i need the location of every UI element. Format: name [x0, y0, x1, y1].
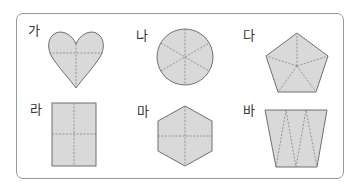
heart-shape — [49, 32, 104, 88]
figures-canvas: .shape { fill:#d9d9d9; stroke:#6f6f6f; s… — [0, 0, 353, 194]
circle-shape — [157, 29, 213, 85]
trapezoid-shape — [265, 110, 327, 167]
rectangle-shape — [52, 103, 96, 166]
pentagon-shape — [266, 33, 328, 92]
hexagon-shape — [158, 106, 212, 166]
